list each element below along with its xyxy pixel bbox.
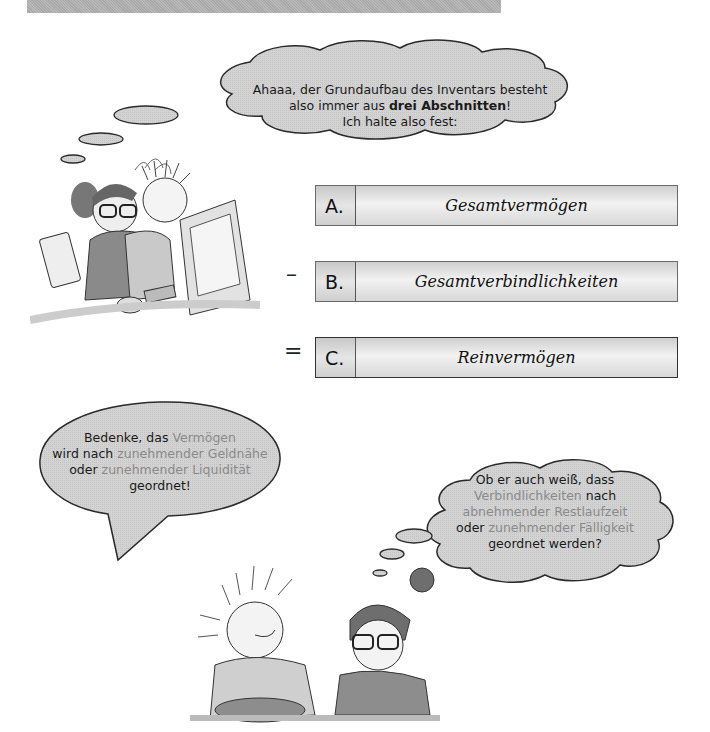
thought-right-line1: Ob er auch weiß, dass <box>445 472 645 488</box>
illustration-table-scene <box>190 550 450 725</box>
thought-top-line1: Ahaaa, der Grundaufbau des Inventars bes… <box>240 82 560 98</box>
thought-top-line2: also immer aus drei Abschnitten! <box>240 98 560 114</box>
scheme-row-b: B. Gesamtverbindlichkeiten <box>315 261 678 302</box>
thought-right-line3: abnehmender Restlaufzeit <box>445 504 645 520</box>
row-c-label: Reinvermögen <box>356 338 677 377</box>
row-b-letter: B. <box>316 262 356 301</box>
thought-top-line2-prefix: also immer aus <box>289 98 389 113</box>
thought-top-line2-bold: drei Abschnitten <box>389 98 506 113</box>
thought-right-l2-suffix: nach <box>582 488 616 503</box>
scheme-row-a: A. Gesamtvermögen <box>315 185 678 226</box>
thought-right-line4: oder zunehmender Fälligkeit <box>445 520 645 536</box>
thought-right-l4-prefix: oder <box>456 520 488 535</box>
scheme-row-c: C. Reinvermögen <box>315 337 678 378</box>
row-a-letter: A. <box>316 186 356 225</box>
thought-right-l2-highlight: Verbindlichkeiten <box>474 488 582 503</box>
thought-right-text: Ob er auch weiß, dass Verbindlichkeiten … <box>445 472 645 552</box>
thought-top-line2-suffix: ! <box>506 98 511 113</box>
operator-row-b: – <box>286 261 297 286</box>
row-c-letter: C. <box>316 338 356 377</box>
row-b-label: Gesamtverbindlichkeiten <box>356 262 677 301</box>
thought-top-line3: Ich halte also fest: <box>240 114 560 130</box>
thought-right-l4-highlight: zunehmender Fälligkeit <box>488 520 633 535</box>
thought-right-line5: geordnet werden? <box>445 536 645 552</box>
thought-right-line2: Verbindlichkeiten nach <box>445 488 645 504</box>
row-a-label: Gesamtvermögen <box>356 186 677 225</box>
thought-right-l3-highlight: abnehmender Restlaufzeit <box>463 504 628 519</box>
illustration-computer-scene <box>30 150 260 325</box>
operator-row-c: = <box>284 338 302 363</box>
thought-top-text: Ahaaa, der Grundaufbau des Inventars bes… <box>240 82 560 130</box>
